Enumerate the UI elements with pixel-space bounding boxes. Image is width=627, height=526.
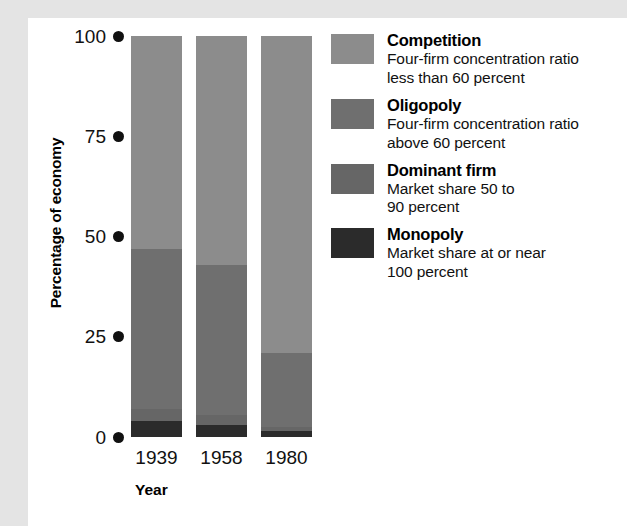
legend-entry-oligopoly: OligopolyFour-firm concentration ratioab… — [331, 96, 621, 153]
bar-segment-oligopoly — [261, 353, 312, 427]
bar-segment-competition — [131, 36, 182, 249]
legend-swatch — [331, 228, 374, 258]
legend-description-line: Market share 50 to — [387, 180, 514, 199]
legend-text: MonopolyMarket share at or near100 perce… — [387, 225, 546, 282]
bar-segment-oligopoly — [131, 249, 182, 409]
legend-text: CompetitionFour-firm concentration ratio… — [387, 31, 579, 88]
x-axis-title: Year — [135, 481, 168, 499]
legend-entry-competition: CompetitionFour-firm concentration ratio… — [331, 31, 621, 88]
bar-segment-monopoly — [196, 425, 247, 437]
y-axis-tick-label: 75 — [85, 127, 106, 146]
y-axis-tick-label: 100 — [74, 27, 106, 46]
y-axis-tick: 0 — [28, 429, 124, 445]
bar-segment-oligopoly — [196, 265, 247, 415]
legend-description-line: Four-firm concentration ratio — [387, 50, 579, 69]
bar-segment-monopoly — [261, 431, 312, 437]
y-axis-tick: 25 — [28, 329, 124, 345]
bar-segment-dominant-firm — [196, 415, 247, 425]
legend-description-line: Market share at or near — [387, 244, 546, 263]
plot-area: Percentage of economy 1007550250 1939195… — [28, 18, 348, 526]
y-axis-tick: 50 — [28, 229, 124, 245]
legend-swatch — [331, 99, 374, 129]
bar-segment-competition — [196, 36, 247, 265]
legend-text: Dominant firmMarket share 50 to90 percen… — [387, 161, 514, 218]
x-axis-tick-label: 1939 — [122, 447, 192, 469]
y-axis-tick-marker — [113, 331, 124, 342]
chart-legend: CompetitionFour-firm concentration ratio… — [331, 31, 621, 290]
stacked-bar-1980 — [261, 36, 312, 437]
legend-description-line: 90 percent — [387, 198, 514, 217]
legend-description-line: 100 percent — [387, 263, 546, 282]
y-axis-tick-marker — [113, 131, 124, 142]
y-axis-tick-marker — [113, 31, 124, 42]
bar-segment-dominant-firm — [131, 409, 182, 421]
legend-entry-dominant-firm: Dominant firmMarket share 50 to90 percen… — [331, 161, 621, 218]
bar-segment-monopoly — [131, 421, 182, 437]
legend-swatch — [331, 164, 374, 194]
legend-title: Competition — [387, 31, 579, 50]
stacked-bar-1939 — [131, 36, 182, 437]
stacked-bar-1958 — [196, 36, 247, 437]
y-axis-tick: 75 — [28, 128, 124, 144]
legend-text: OligopolyFour-firm concentration ratioab… — [387, 96, 579, 153]
y-axis-tick-label: 50 — [85, 227, 106, 246]
chart-figure: Percentage of economy 1007550250 1939195… — [0, 0, 627, 526]
legend-title: Oligopoly — [387, 96, 579, 115]
y-axis-tick-label: 25 — [85, 327, 106, 346]
y-axis-title: Percentage of economy — [47, 123, 65, 323]
legend-description-line: Four-firm concentration ratio — [387, 115, 579, 134]
y-axis-tick-marker — [113, 231, 124, 242]
legend-entry-monopoly: MonopolyMarket share at or near100 perce… — [331, 225, 621, 282]
x-axis-tick-label: 1958 — [187, 447, 257, 469]
legend-description-line: less than 60 percent — [387, 69, 579, 88]
x-axis-tick-label: 1980 — [252, 447, 322, 469]
y-axis-tick-marker — [113, 432, 124, 443]
y-axis-tick-label: 0 — [95, 428, 106, 447]
legend-swatch — [331, 34, 374, 64]
y-axis-tick: 100 — [28, 28, 124, 44]
legend-title: Monopoly — [387, 225, 546, 244]
chart-card: Percentage of economy 1007550250 1939195… — [28, 18, 627, 526]
legend-title: Dominant firm — [387, 161, 514, 180]
bar-segment-competition — [261, 36, 312, 353]
legend-description-line: above 60 percent — [387, 134, 579, 153]
